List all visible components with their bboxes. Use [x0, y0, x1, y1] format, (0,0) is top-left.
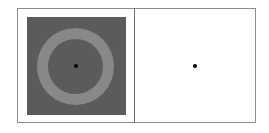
- left-panel-gray-square: [27, 17, 126, 115]
- fixation-dot-left: [74, 64, 78, 68]
- fixation-dot-right: [193, 64, 197, 68]
- panel-divider: [134, 8, 135, 123]
